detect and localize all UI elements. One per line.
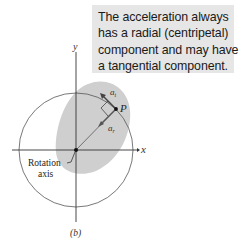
- x-axis-label: x: [140, 143, 146, 155]
- x-axis-arrow-icon: [137, 148, 140, 152]
- rotation-axis-dot: [74, 148, 78, 152]
- point-p-dot: [114, 107, 118, 111]
- y-axis-label: y: [72, 41, 78, 52]
- figure-caption: (b): [70, 228, 81, 239]
- point-p-label: P: [119, 102, 127, 114]
- rotation-axis-label-line1: Rotation: [28, 158, 61, 168]
- rotation-diagram: y x P at ar Rotation axis (b): [0, 0, 242, 248]
- rotation-axis-label-line2: axis: [38, 169, 54, 179]
